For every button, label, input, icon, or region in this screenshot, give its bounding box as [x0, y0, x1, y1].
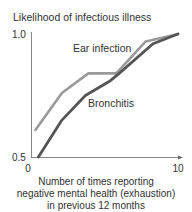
x-axis-arrow-icon	[178, 156, 183, 160]
chart-title: Likelihood of infectious illness	[13, 11, 151, 23]
x-axis-label: Number of times reporting negative menta…	[0, 176, 192, 212]
x-axis-label-line-1: Number of times reporting	[0, 176, 192, 188]
line-chart: Likelihood of infectious illness 1.0 0.5…	[0, 0, 192, 212]
y-tick-top: 1.0	[12, 29, 26, 40]
ear-infection-label: Ear infection	[73, 42, 132, 54]
y-tick-bottom: 0.5	[12, 152, 26, 163]
x-axis-label-line-2: negative mental health (exhaustion)	[0, 188, 192, 200]
x-axis-label-line-3: in previous 12 months	[0, 200, 192, 212]
bronchitis-label: Bronchitis	[88, 97, 134, 109]
x-tick-left: 0	[25, 163, 31, 174]
x-tick-right: 10	[172, 163, 184, 174]
